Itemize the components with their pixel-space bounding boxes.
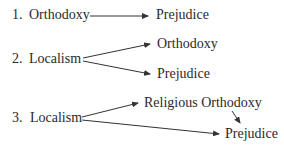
arrow-localism-to-prejudice — [83, 61, 150, 74]
arrows-layer — [0, 0, 284, 155]
arrow-localism-to-orthodoxy — [83, 44, 150, 58]
arrow-localism-to-religious-orthodoxy — [82, 103, 138, 117]
arrow-religious-orthodoxy-to-prejudice — [232, 111, 240, 123]
arrow-localism-to-prejudice-direct — [82, 120, 219, 134]
